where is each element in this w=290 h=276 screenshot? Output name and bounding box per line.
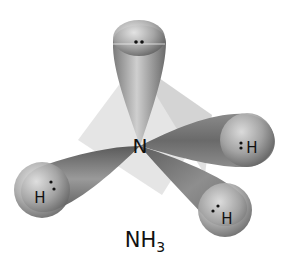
orbital-left-h	[14, 146, 140, 218]
hydrogen-label-right: H	[246, 139, 257, 157]
formula-subscript: 3	[156, 239, 165, 255]
formula-base: NH	[125, 228, 157, 252]
hydrogen-label-left: H	[34, 189, 45, 207]
molecule-formula: NH3	[0, 228, 290, 255]
nh3-diagram: N H H H NH3	[0, 0, 290, 276]
hydrogen-label-lower-right: H	[221, 210, 232, 228]
lone-pair-dot	[134, 40, 138, 44]
nitrogen-label: N	[133, 134, 148, 158]
lone-pair-dot	[140, 40, 144, 44]
